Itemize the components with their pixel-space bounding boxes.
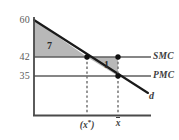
- region-label-consumer-surplus: 7: [47, 40, 52, 51]
- region-label-deadweight-loss: 1: [104, 59, 109, 70]
- y-tick-label-35: 35: [8, 70, 30, 81]
- demand-label: d: [149, 90, 154, 101]
- x-tick-label-x-bar: x: [110, 118, 126, 128]
- smc-label: SMC: [153, 51, 174, 61]
- marker-smc-at-x-bar: [115, 54, 120, 59]
- x-star-paren-close: ): [91, 120, 94, 130]
- y-tick-label-60: 60: [8, 14, 30, 25]
- marker-d-meets-smc: [84, 54, 89, 59]
- marker-d-meets-pmc: [115, 73, 120, 78]
- economics-externality-diagram: 60 42 35 SMC PMC d (x*) x 7 1: [0, 0, 179, 140]
- x-tick-label-x-star: (x*): [74, 118, 100, 130]
- x-bar-variable-wrap: x: [116, 118, 121, 128]
- x-bar-variable: x: [116, 118, 121, 128]
- pmc-label: PMC: [153, 70, 175, 80]
- shaded-region-deadweight-loss: [87, 57, 118, 76]
- y-tick-label-42: 42: [8, 51, 30, 62]
- x-bar-overline: [116, 117, 121, 118]
